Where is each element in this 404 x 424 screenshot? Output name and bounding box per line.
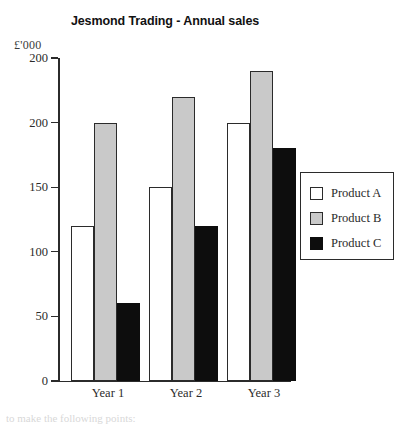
legend-swatch-icon (310, 187, 323, 200)
bar-year-3-product-a (227, 123, 250, 381)
y-axis-tick-label: 200 (6, 52, 48, 65)
y-axis-tick (51, 316, 58, 317)
legend-item-product-c: Product C (310, 231, 393, 256)
y-axis-tick-label: 50 (6, 310, 48, 323)
chart-legend: Product AProduct BProduct C (300, 172, 394, 260)
bar-year-1-product-b (94, 123, 117, 381)
y-axis-tick (51, 57, 58, 58)
legend-item-label: Product A (331, 186, 381, 201)
plot-area (58, 58, 290, 381)
y-axis-tick (51, 187, 58, 188)
y-axis-tick (51, 251, 58, 252)
y-axis-tick (51, 380, 58, 381)
y-axis-tick-label: 100 (6, 246, 48, 259)
legend-swatch-icon (310, 237, 323, 250)
legend-item-label: Product C (331, 236, 381, 251)
bar-year-1-product-a (71, 226, 94, 381)
bar-group (149, 58, 223, 381)
legend-item-label: Product B (331, 211, 381, 226)
y-axis-tick (51, 122, 58, 123)
x-axis-label-year-3: Year 3 (227, 386, 301, 401)
bar-year-1-product-c (117, 303, 140, 381)
y-axis-tick-label: 200 (6, 116, 48, 129)
x-axis-label-year-1: Year 1 (71, 386, 145, 401)
bar-year-2-product-b (172, 97, 195, 381)
bar-year-2-product-c (195, 226, 218, 381)
chart-title: Jesmond Trading - Annual sales (0, 14, 330, 28)
bar-group (227, 58, 301, 381)
x-axis-label-year-2: Year 2 (149, 386, 223, 401)
legend-swatch-icon (310, 212, 323, 225)
legend-item-product-b: Product B (310, 206, 393, 231)
bar-year-2-product-a (149, 187, 172, 381)
bar-year-3-product-c (273, 148, 296, 381)
y-axis-tick-labels: 200200150100500 (0, 0, 48, 424)
bar-chart-figure: Jesmond Trading - Annual sales £'000 200… (0, 0, 404, 424)
bar-group (71, 58, 145, 381)
legend-item-product-a: Product A (310, 181, 393, 206)
footer-caption: to make the following points: (6, 412, 136, 424)
y-axis-tick-label: 0 (6, 375, 48, 388)
bar-year-3-product-b (250, 71, 273, 381)
y-axis-tick-label: 150 (6, 181, 48, 194)
